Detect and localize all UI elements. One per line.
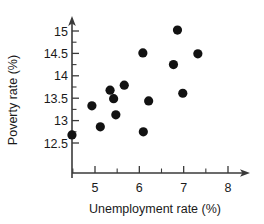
y-tick-label: 15 <box>54 25 68 39</box>
y-tick-labels: 12.51313.51414.515 <box>44 25 68 151</box>
x-tick-label: 5 <box>92 181 99 195</box>
data-point <box>138 48 147 57</box>
x-axis-group: 5678 <box>72 166 250 195</box>
data-point <box>67 130 76 139</box>
y-tick-label: 13 <box>54 114 68 128</box>
data-point <box>109 94 118 103</box>
y-tick-label: 13.5 <box>44 92 68 106</box>
data-point <box>173 26 182 35</box>
x-tick-label: 6 <box>136 181 143 195</box>
y-axis-title: Poverty rate (%) <box>6 55 20 145</box>
data-point <box>169 60 178 69</box>
y-axis-group: 12.51313.51414.515 <box>44 16 79 178</box>
scatter-plot-figure: 12.51313.51414.515 5678 Unemployment rat… <box>0 0 264 224</box>
data-point <box>105 86 114 95</box>
data-point <box>144 96 153 105</box>
data-point-series <box>67 26 202 140</box>
data-point <box>111 110 120 119</box>
data-point <box>96 122 105 131</box>
data-point <box>193 49 202 58</box>
scatter-plot-svg: 12.51313.51414.515 5678 Unemployment rat… <box>0 0 264 224</box>
x-tick-label: 7 <box>180 181 187 195</box>
y-tick-label: 14 <box>54 69 68 83</box>
y-tick-label: 14.5 <box>44 47 68 61</box>
data-point <box>139 127 148 136</box>
data-point <box>120 81 129 90</box>
x-tick-label: 8 <box>225 181 232 195</box>
x-axis-title: Unemployment rate (%) <box>89 202 221 216</box>
y-tick-label: 12.5 <box>44 137 68 151</box>
data-point <box>178 89 187 98</box>
x-tick-labels: 5678 <box>92 181 232 195</box>
data-point <box>87 101 96 110</box>
